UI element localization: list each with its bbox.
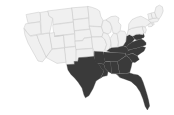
us-choropleth-map	[0, 0, 174, 115]
state-SD[interactable]	[74, 18, 90, 31]
state-IA[interactable]	[89, 26, 103, 37]
state-MN[interactable]	[88, 6, 103, 26]
state-WA[interactable]	[27, 12, 41, 23]
state-WY[interactable]	[53, 22, 75, 36]
state-IN[interactable]	[110, 33, 118, 47]
state-ND[interactable]	[72, 7, 89, 20]
state-AR[interactable]	[94, 52, 105, 65]
state-layer	[24, 5, 163, 110]
state-FL[interactable]	[117, 73, 150, 110]
state-RI[interactable]	[152, 23, 154, 26]
us-map-svg	[0, 0, 174, 115]
